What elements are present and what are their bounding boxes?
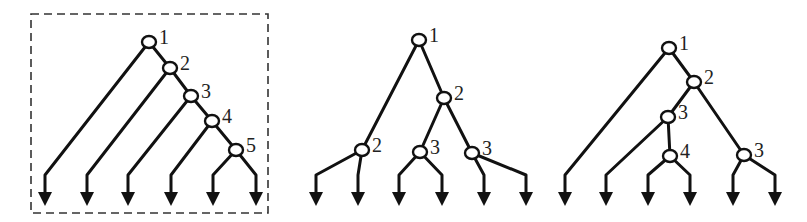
tree-node — [163, 62, 177, 74]
tree-node — [737, 149, 751, 161]
arrow-down-icon — [768, 192, 782, 206]
node-label: 3 — [430, 136, 440, 158]
tree-edge — [444, 98, 472, 153]
node-label: 2 — [372, 134, 382, 156]
tree-node — [229, 144, 243, 156]
tree-node — [687, 76, 701, 88]
leaf-edge — [606, 117, 668, 195]
leaf-edge — [744, 155, 775, 195]
arrow-down-icon — [38, 192, 52, 206]
tree-node — [663, 150, 677, 162]
node-label: 2 — [704, 66, 714, 88]
tree-node — [661, 111, 675, 123]
tree-node — [355, 144, 369, 156]
chain-tree: 12345 — [31, 14, 268, 213]
arrow-down-icon — [309, 192, 323, 206]
node-label: 3 — [482, 137, 492, 159]
node-label: 5 — [246, 134, 256, 156]
arrow-down-icon — [519, 192, 533, 206]
leaf-edge — [565, 48, 669, 195]
node-label: 3 — [201, 80, 211, 102]
arrow-down-icon — [249, 192, 263, 206]
arrow-down-icon — [599, 192, 613, 206]
arrow-down-icon — [80, 192, 94, 206]
tree-node — [205, 115, 219, 127]
arrow-down-icon — [641, 192, 655, 206]
arrow-down-icon — [558, 192, 572, 206]
node-label: 3 — [754, 139, 764, 161]
tree-node — [142, 36, 156, 48]
arrow-down-icon — [164, 192, 178, 206]
leaf-edge — [472, 153, 526, 195]
node-label: 1 — [159, 26, 169, 48]
node-label: 1 — [679, 32, 689, 54]
arrow-down-icon — [726, 192, 740, 206]
node-label: 4 — [222, 105, 232, 127]
leaf-edge — [316, 150, 362, 195]
balanced-tree: 12233 — [309, 24, 533, 206]
leaf-edge — [45, 42, 149, 195]
tree-edge — [419, 40, 444, 98]
arrow-down-icon — [121, 192, 135, 206]
leaf-edge — [171, 121, 212, 195]
tree-node — [184, 90, 198, 102]
node-label: 2 — [180, 52, 190, 74]
tree-edge — [362, 40, 419, 150]
arrow-down-icon — [351, 192, 365, 206]
arrow-down-icon — [477, 192, 491, 206]
tree-diagram-canvas: 123451223312343 — [0, 0, 807, 222]
node-label: 4 — [680, 140, 690, 162]
tree-node — [662, 42, 676, 54]
leaf-edge — [213, 150, 236, 195]
tree-node — [465, 147, 479, 159]
node-label: 1 — [429, 24, 439, 46]
tree-edge — [694, 82, 744, 155]
arrow-down-icon — [392, 192, 406, 206]
tree-diagram-figure: 123451223312343 — [0, 0, 807, 222]
tree-node — [413, 146, 427, 158]
arrow-down-icon — [206, 192, 220, 206]
leaf-edge — [236, 150, 256, 195]
tree-node — [412, 34, 426, 46]
arrow-down-icon — [683, 192, 697, 206]
node-label: 3 — [678, 101, 688, 123]
mixed-tree: 12343 — [558, 32, 782, 206]
tree-node — [437, 92, 451, 104]
node-label: 2 — [454, 82, 464, 104]
arrow-down-icon — [435, 192, 449, 206]
